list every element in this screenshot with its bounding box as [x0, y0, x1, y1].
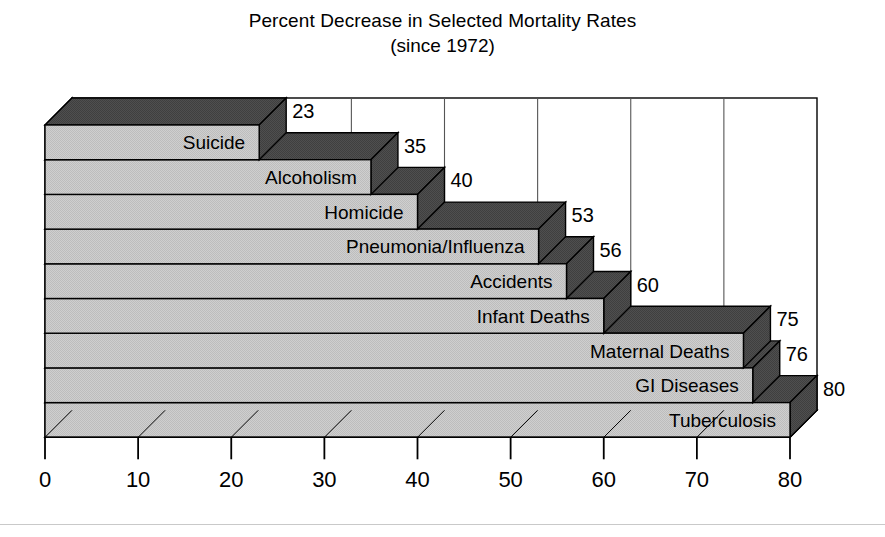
bar-category-label: Alcoholism [265, 167, 357, 188]
bar-value-label: 76 [786, 343, 808, 365]
x-axis-tick-label: 0 [39, 467, 51, 492]
bar-value-label: 60 [637, 274, 659, 296]
bar-category-label: Pneumonia/Influenza [346, 236, 525, 257]
bar-category-label: GI Diseases [635, 375, 738, 396]
bar-value-label: 40 [451, 169, 473, 191]
x-axis-tick-label: 20 [219, 467, 243, 492]
bar-value-label: 23 [292, 100, 314, 122]
bar-category-label: Suicide [183, 132, 245, 153]
x-axis-tick-label: 80 [778, 467, 802, 492]
bar-value-label: 75 [776, 308, 798, 330]
x-axis-tick-label: 10 [126, 467, 150, 492]
x-axis-tick-label: 60 [592, 467, 616, 492]
bar-category-label: Accidents [470, 271, 552, 292]
bar-category-label: Homicide [324, 202, 403, 223]
bar-value-label: 53 [572, 204, 594, 226]
bar-value-label: 35 [404, 135, 426, 157]
x-axis-tick-label: 40 [405, 467, 429, 492]
x-axis-tick-label: 50 [498, 467, 522, 492]
bar-category-label: Maternal Deaths [590, 341, 729, 362]
bar-category-label: Infant Deaths [477, 306, 590, 327]
bottom-divider [0, 524, 885, 525]
bar-value-label: 56 [600, 239, 622, 261]
x-axis-tick-label: 30 [312, 467, 336, 492]
bar-category-label: Tuberculosis [669, 410, 776, 431]
x-axis-tick-label: 70 [685, 467, 709, 492]
bar-value-label: 80 [823, 378, 845, 400]
chart-plot-area: TuberculosisGI DiseasesMaternal DeathsIn… [0, 0, 885, 537]
mortality-bar-chart: TuberculosisGI DiseasesMaternal DeathsIn… [0, 0, 885, 537]
